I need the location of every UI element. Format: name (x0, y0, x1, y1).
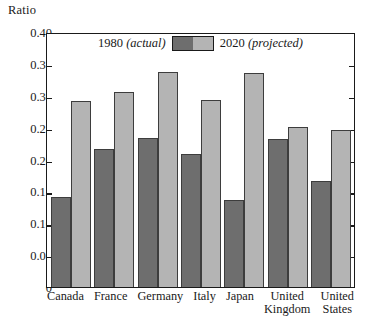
bar-actual (138, 138, 158, 287)
bar-projected (244, 73, 264, 287)
y-axis-tick-label: 0.25 (0, 121, 52, 136)
x-axis-label-line1: Germany (137, 289, 183, 303)
bar-projected (331, 130, 351, 287)
x-axis-label-line1: Canada (47, 289, 84, 303)
x-axis-label: Italy (193, 290, 216, 317)
x-axis-label-line1: France (94, 289, 127, 303)
x-axis-label: UnitedKingdom (264, 290, 310, 317)
x-axis-label: Germany (137, 290, 183, 317)
y-axis-title: Ratio (8, 3, 36, 18)
y-axis-tick-label: 0.20 (0, 153, 52, 168)
y-axis-tick-label: 0.15 (0, 185, 52, 200)
x-axis-label: Japan (226, 290, 254, 317)
bar-group (51, 34, 91, 287)
bar-projected (288, 127, 308, 287)
x-axis-label-line2: States (321, 303, 354, 316)
x-axis-label-line1: Japan (226, 289, 254, 303)
bar-group (138, 34, 178, 287)
bar-projected (158, 72, 178, 287)
bar-projected (201, 100, 221, 287)
y-axis-tick-label: 0.40 (0, 26, 52, 41)
bar-group (181, 34, 221, 287)
bar-group (268, 34, 308, 287)
x-axis-label-line1: United (321, 289, 354, 303)
bars-layer (47, 34, 354, 287)
y-axis-tick-label: 0.35 (0, 57, 52, 72)
bar-projected (71, 101, 91, 287)
y-axis-tick-label: 0.30 (0, 89, 52, 104)
x-axis-label-line2: Kingdom (264, 303, 310, 316)
x-axis-labels: CanadaFranceGermanyItalyJapanUnitedKingd… (46, 290, 355, 317)
bar-group (224, 34, 264, 287)
x-axis-label: Canada (47, 290, 84, 317)
x-axis-label-line1: United (270, 289, 303, 303)
y-axis-tick-label: 0.10 (0, 217, 52, 232)
y-axis-tick-label: 0.05 (0, 249, 52, 264)
bar-actual (224, 200, 244, 287)
bar-actual (268, 139, 288, 287)
bar-actual (94, 149, 114, 287)
bar-chart: Ratio 0.400.350.300.250.200.150.100.050 … (0, 0, 369, 325)
x-axis-label-line1: Italy (193, 289, 216, 303)
bar-actual (311, 181, 331, 287)
bar-actual (181, 154, 201, 287)
bar-group (311, 34, 351, 287)
bar-projected (114, 92, 134, 287)
bar-group (94, 34, 134, 287)
y-axis-tick-label: 0 (0, 281, 52, 296)
bar-actual (51, 197, 71, 287)
x-axis-label: France (94, 290, 127, 317)
x-axis-label: UnitedStates (321, 290, 354, 317)
plot-area (46, 33, 355, 288)
